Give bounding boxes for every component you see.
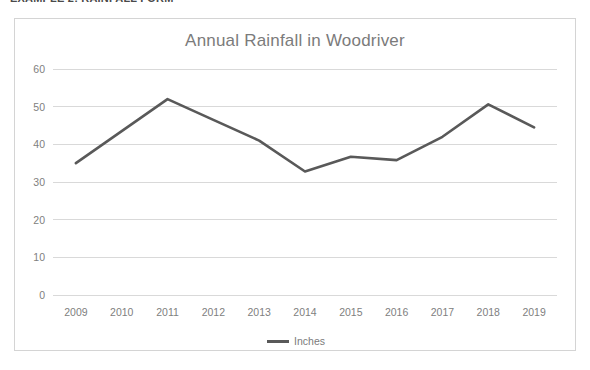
data-series-line-inches: [76, 99, 534, 171]
chart-svg-canvas: [15, 19, 577, 352]
legend-line-swatch-icon: [267, 340, 289, 343]
plot-area: 6050403020100 20092010201120122013201420…: [15, 19, 577, 352]
chart-legend: Inches: [15, 335, 577, 347]
document-header-text: EXAMPLE 2: RAINFALL FORM: [10, 0, 174, 4]
chart-container: Annual Rainfall in Woodriver 60504030201…: [14, 18, 576, 351]
legend-label-inches: Inches: [294, 335, 325, 347]
